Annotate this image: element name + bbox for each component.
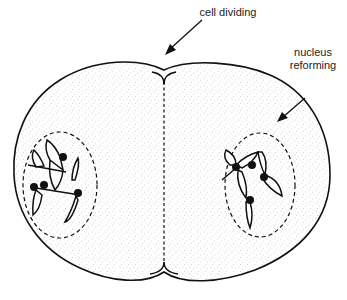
label-nucleus-line1: nucleus bbox=[278, 46, 347, 59]
arrow-cell-dividing bbox=[165, 20, 202, 55]
label-nucleus-line2: reforming bbox=[278, 59, 347, 72]
cell-division-diagram bbox=[0, 0, 347, 300]
label-cell-dividing: cell dividing bbox=[183, 6, 273, 19]
label-nucleus-reforming: nucleus reforming bbox=[278, 46, 347, 72]
